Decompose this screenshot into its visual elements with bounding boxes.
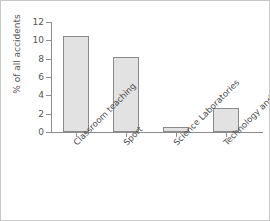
y-axis-tick: [46, 95, 51, 96]
y-axis-tick-label: 4: [4, 91, 44, 100]
y-axis-tick: [46, 114, 51, 115]
y-axis-tick: [46, 132, 51, 133]
bar-chart-figure: 024681012 % of all accidents Classroom t…: [0, 0, 270, 221]
plot-area: 024681012 % of all accidents Classroom t…: [1, 1, 270, 221]
y-axis-tick-labels: 024681012: [1, 1, 44, 221]
y-axis-tick: [46, 77, 51, 78]
y-axis-tick: [46, 22, 51, 23]
y-axis-tick-label: 0: [4, 128, 44, 137]
y-axis-tick: [46, 59, 51, 60]
y-axis-tick-label: 8: [4, 54, 44, 63]
bar: [63, 36, 89, 132]
y-axis-line: [51, 22, 52, 132]
y-axis-title: % of all accidents: [12, 0, 22, 109]
y-axis-tick-label: 6: [4, 73, 44, 82]
y-axis-tick: [46, 40, 51, 41]
y-axis-tick-label: 2: [4, 109, 44, 118]
y-axis-tick-label: 12: [4, 18, 44, 27]
y-axis-tick-label: 10: [4, 36, 44, 45]
